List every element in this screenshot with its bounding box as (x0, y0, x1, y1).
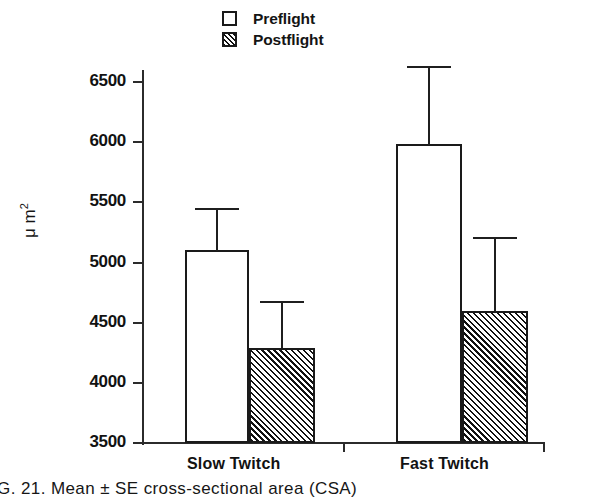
x-tick-right-end (543, 443, 545, 452)
y-axis-title: μ m2 (18, 203, 40, 238)
error-bar-cap-fast-postflight (473, 237, 517, 239)
figure-bar-chart: Preflight Postflight 6500 6000 5500 5000… (0, 0, 599, 501)
error-bar-stem-slow-preflight (216, 208, 218, 251)
error-bar-stem-fast-preflight (428, 66, 430, 145)
plot-area: 6500 6000 5500 5000 4500 4000 3500 μ m2 (0, 0, 599, 501)
figure-caption-text: IG. 21. Mean ± SE cross-sectional area (… (0, 482, 357, 499)
bar-slow-twitch-postflight (249, 348, 315, 443)
y-axis-title-text: μ m (20, 209, 39, 238)
y-tick-4000 (133, 382, 143, 384)
x-category-label-slow-twitch: Slow Twitch (187, 455, 280, 473)
y-tick-6000 (133, 141, 143, 143)
error-bar-cap-slow-preflight (195, 208, 239, 210)
error-bar-stem-slow-postflight (281, 301, 283, 348)
bar-slow-twitch-preflight (185, 250, 249, 443)
y-tick-5000 (133, 262, 143, 264)
y-tick-5500 (133, 201, 143, 203)
figure-caption: IG. 21. Mean ± SE cross-sectional area (… (0, 482, 599, 501)
error-bar-stem-fast-postflight (494, 237, 496, 312)
y-tick-3500 (133, 442, 143, 444)
bar-fast-twitch-preflight (396, 144, 462, 443)
y-axis-title-exponent: 2 (18, 203, 30, 209)
x-category-label-fast-twitch: Fast Twitch (400, 455, 489, 473)
y-axis-line (142, 70, 144, 445)
x-tick-group-separator (343, 443, 345, 452)
y-tick-6500 (133, 81, 143, 83)
error-bar-cap-slow-postflight (260, 301, 304, 303)
error-bar-cap-fast-preflight (407, 66, 451, 68)
y-tick-4500 (133, 322, 143, 324)
bar-fast-twitch-postflight (462, 311, 528, 443)
